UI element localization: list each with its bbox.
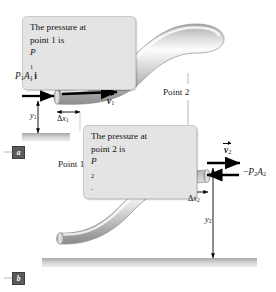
callout-2-period: . — [91, 181, 190, 194]
panel-badge-a: a — [12, 146, 25, 159]
velocity2-symbol: v — [224, 146, 228, 155]
callout-1-period: . — [30, 72, 129, 85]
force-label-1: P1A1i — [15, 72, 37, 82]
velocity1-symbol: v — [107, 97, 111, 106]
callout-2-symbol: P — [91, 155, 190, 168]
callout-1-symbol: P — [30, 46, 129, 59]
dx2-subscript: 2 — [197, 197, 200, 203]
callout-2-line-2: point 2 is P2. — [91, 143, 190, 194]
force-label-2: −P2A2 — [243, 168, 266, 178]
point-1-label: Point 1 — [58, 160, 84, 169]
callout-1-line-2: point 1 is P1. — [30, 34, 129, 85]
callout-1-line-1: The pressure at — [30, 21, 129, 34]
dx2-label: Δx2 — [188, 195, 200, 204]
callout-pressure-point-2: The pressure at point 2 is P2. — [83, 125, 197, 199]
point-2-label: Point 2 — [163, 88, 189, 97]
height-label-1: y1 — [30, 112, 36, 121]
dx1-subscript: 1 — [66, 117, 69, 123]
height2-subscript: 2 — [209, 218, 212, 224]
velocity1-subscript: 1 — [111, 99, 114, 106]
height-label-2: y2 — [205, 216, 211, 225]
ground-bar-lower — [42, 258, 257, 267]
velocity-label-2: v2 — [224, 146, 231, 156]
ground-bar-upper — [22, 133, 70, 141]
callout-pressure-point-1: The pressure at point 1 is P1. — [22, 16, 136, 90]
panel-badge-b: b — [12, 272, 25, 285]
velocity2-subscript: 2 — [228, 148, 231, 155]
callout-2-subscript: 2 — [91, 172, 94, 179]
force1-a-sub: 1 — [30, 74, 33, 81]
velocity-label-1: v1 — [107, 97, 114, 107]
force2-a-sub: 2 — [263, 170, 266, 177]
callout-1-subscript: 1 — [30, 63, 33, 70]
height1-subscript: 1 — [34, 114, 37, 120]
callout-1-prefix: point 1 is — [30, 34, 129, 47]
callout-2-prefix: point 2 is — [91, 143, 190, 156]
callout-2-line-1: The pressure at — [91, 130, 190, 143]
dx1-label: Δx1 — [57, 115, 69, 124]
force1-unit-vector: i — [34, 71, 37, 81]
